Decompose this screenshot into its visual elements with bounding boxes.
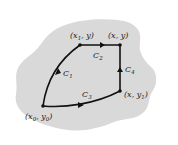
label-x1-y: (x1, y) xyxy=(70,31,94,41)
path-independence-diagram: (x1, y) (x, y) (x, y1) (x0, y0) C1 C2 C3… xyxy=(0,0,178,145)
point-x1-y xyxy=(78,43,82,47)
label-x0-y0: (x0, y0) xyxy=(25,112,52,122)
point-x-y1 xyxy=(118,89,122,93)
label-x-y: (x, y) xyxy=(108,31,128,40)
point-x0-y0 xyxy=(41,104,45,108)
label-x-y1: (x, y1) xyxy=(124,90,148,100)
point-x-y xyxy=(118,43,122,47)
